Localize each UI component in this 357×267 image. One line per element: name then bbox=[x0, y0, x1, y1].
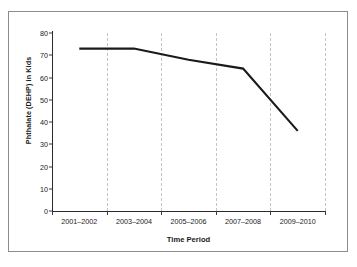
y-tick-label: 60 bbox=[40, 73, 48, 82]
y-tick-label: 40 bbox=[40, 118, 48, 127]
x-tick-label: 2005–2006 bbox=[171, 217, 207, 226]
y-axis-title: Phthalate (DEHP) in Kids bbox=[24, 21, 33, 181]
data-series-line bbox=[52, 33, 325, 211]
y-tick-label: 20 bbox=[40, 162, 48, 171]
x-tick-label: 2007–2008 bbox=[225, 217, 261, 226]
x-tick-mark bbox=[325, 211, 326, 215]
x-tick-label: 2001–2002 bbox=[61, 217, 97, 226]
y-tick-label: 50 bbox=[40, 95, 48, 104]
gridline-vertical bbox=[325, 33, 326, 211]
y-tick-label: 0 bbox=[44, 207, 48, 216]
x-tick-mark bbox=[216, 211, 217, 215]
y-tick-label: 70 bbox=[40, 51, 48, 60]
x-axis-line bbox=[52, 211, 326, 212]
x-tick-label: 2003–2004 bbox=[116, 217, 152, 226]
y-tick-label: 30 bbox=[40, 140, 48, 149]
chart-figure: Phthalate (DEHP) in Kids Time Period 807… bbox=[0, 0, 357, 267]
x-tick-mark bbox=[270, 211, 271, 215]
x-tick-mark bbox=[52, 211, 53, 215]
x-tick-label: 2009–2010 bbox=[280, 217, 316, 226]
x-tick-mark bbox=[107, 211, 108, 215]
x-axis-title: Time Period bbox=[52, 235, 325, 244]
y-tick-label: 10 bbox=[40, 184, 48, 193]
plot-area: 80706050403020100 2001–20022003–20042005… bbox=[52, 33, 325, 211]
y-tick-label: 80 bbox=[40, 29, 48, 38]
x-tick-mark bbox=[161, 211, 162, 215]
